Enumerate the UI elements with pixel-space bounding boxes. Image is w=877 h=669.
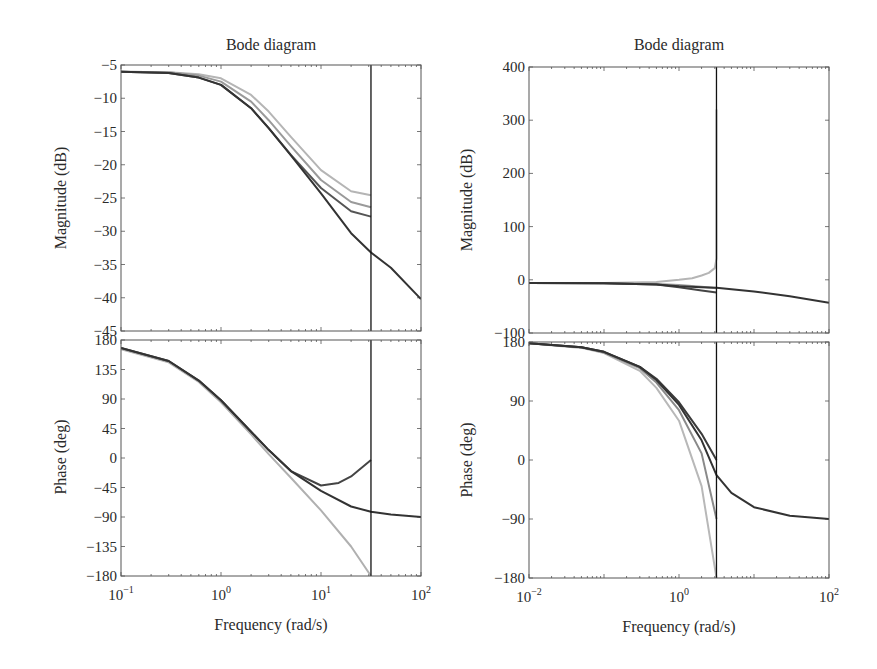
bode-figure: Bode diagram −5−10−15−20−25−30−35−40−45 … [0,0,877,669]
y-tick-label: −15 [94,124,117,140]
left-xlabel: Frequency (rad/s) [214,616,327,634]
magnitude-series-group [529,110,829,303]
y-tick-label: 300 [503,112,526,128]
right-xlabel: Frequency (rad/s) [622,618,735,636]
y-tick-label: −20 [94,157,117,173]
series-nominal [529,343,829,519]
series-nominal [121,348,421,517]
right-title: Bode diagram [634,36,725,54]
y-tick-label: 0 [518,452,526,468]
x-tick-label: 100 [669,586,689,605]
series-case-3 [529,110,717,283]
left-phase-plot: 18013590450−45−90−135−18010−1100101102 [86,332,431,603]
series-case-1 [121,72,371,217]
x-tick-label: 101 [311,584,331,603]
y-tick-label: 90 [102,391,117,407]
y-tick-label: −90 [94,509,117,525]
x-tick-label: 100 [211,584,231,603]
plot-frame [529,67,829,333]
series-nominal [121,72,421,299]
y-tick-label: 0 [518,272,526,288]
left-title: Bode diagram [226,36,317,54]
plot-frame [121,65,421,331]
y-tick-label: −30 [94,223,117,239]
series-nominal [529,283,829,303]
series-case-3 [529,343,717,578]
y-tick-label: 0 [110,450,118,466]
left-phase-ylabel: Phase (deg) [52,419,70,494]
y-tick-label: 400 [503,59,526,75]
right-phase-plot: 180900−90−18010−2100102 [494,334,839,605]
y-tick-label: 90 [510,393,525,409]
y-tick-label: −180 [86,568,117,584]
y-tick-label: 135 [95,362,118,378]
x-tick-label: 10−2 [516,586,542,605]
y-tick-label: 45 [102,421,117,437]
left-magnitude-plot: −5−10−15−20−25−30−35−40−45 [94,57,421,339]
y-tick-label: −40 [94,290,117,306]
series-case-1 [121,348,371,486]
y-tick-label: −35 [94,257,117,273]
series-case-3 [121,72,371,196]
left-magnitude-ylabel: Magnitude (dB) [52,147,70,250]
y-tick-label: −10 [94,90,117,106]
y-tick-label: −25 [94,190,117,206]
y-tick-label: −90 [502,511,525,527]
series-case-2 [529,343,717,519]
phase-series-group [529,343,829,578]
x-tick-label: 102 [819,586,839,605]
y-tick-label: −5 [101,57,117,73]
plot-frame [529,342,829,578]
series-case-2 [121,349,371,576]
phase-series-group [121,348,421,576]
right-magnitude-ylabel: Magnitude (dB) [458,149,476,252]
x-tick-label: 10−1 [108,584,134,603]
y-tick-label: −180 [494,570,525,586]
magnitude-series-group [121,72,421,299]
y-tick-label: −135 [86,539,117,555]
y-tick-label: 180 [95,332,118,348]
right-phase-ylabel: Phase (deg) [458,422,476,497]
y-tick-label: 200 [503,165,526,181]
y-tick-label: 180 [503,334,526,350]
x-tick-label: 102 [411,584,431,603]
right-magnitude-plot: 4003002001000−100 [494,59,829,341]
y-tick-label: −45 [94,480,117,496]
y-tick-label: 100 [503,219,526,235]
